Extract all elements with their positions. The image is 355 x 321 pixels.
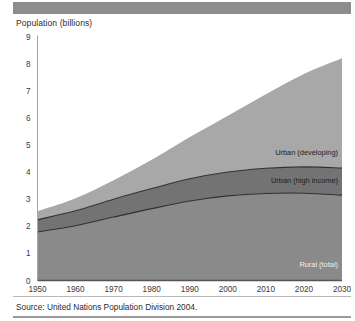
bottom-divider [13, 316, 351, 318]
y-tick-1: 1 [26, 249, 31, 258]
y-tick-8: 8 [26, 60, 31, 69]
y-tick-5: 5 [26, 141, 31, 150]
x-tick-1970: 1970 [105, 285, 124, 294]
x-tick-1960: 1960 [66, 285, 85, 294]
population-area-chart: 0123456789 19501960197019801990200020102… [0, 0, 355, 321]
x-tick-1990: 1990 [181, 285, 200, 294]
x-tick-1980: 1980 [143, 285, 162, 294]
y-tick-7: 7 [26, 87, 31, 96]
x-tick-2010: 2010 [257, 285, 276, 294]
source-note: Source: United Nations Population Divisi… [16, 302, 197, 312]
x-axis: 195019601970198019902000201020202030 [28, 281, 351, 295]
x-tick-2030: 2030 [333, 285, 352, 294]
y-tick-6: 6 [26, 114, 31, 123]
y-tick-3: 3 [26, 195, 31, 204]
y-tick-2: 2 [26, 222, 31, 231]
chart-figure: Population (billions) 0123456789 1950196… [0, 0, 355, 321]
y-tick-4: 4 [26, 168, 31, 177]
plot-areas [38, 58, 343, 280]
series-label-rural-total: Rural (total) [299, 260, 338, 269]
y-axis: 0123456789 [26, 33, 38, 286]
x-tick-1950: 1950 [28, 285, 47, 294]
series-label-urban-high-income: Urban (high income) [271, 176, 338, 185]
x-tick-2000: 2000 [219, 285, 238, 294]
x-tick-2020: 2020 [295, 285, 314, 294]
series-label-urban-developing: Urban (developing) [275, 148, 338, 157]
y-tick-9: 9 [26, 33, 31, 42]
footer-divider [13, 296, 351, 297]
